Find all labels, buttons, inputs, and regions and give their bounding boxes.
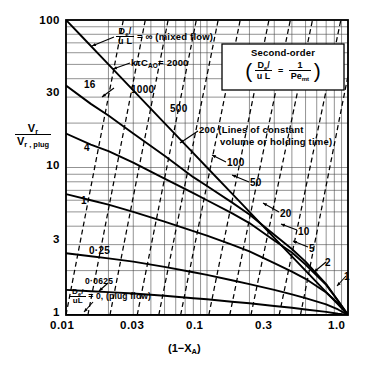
x-tick-0.1: 0.1 [186, 320, 204, 332]
y-tick-3: 3 [24, 234, 60, 246]
legend-rhs-den: Pemt [289, 71, 311, 81]
ktc-label-1: 1 [344, 272, 350, 282]
curve-label-0.0625: 0·0625 [85, 277, 113, 286]
ktcao-value: = 2000 [158, 57, 189, 68]
ktc-label-1000: 1000 [131, 85, 154, 95]
ktc-label-2: 2 [325, 258, 331, 268]
mixed-flow-annotation: De/ u L = ∞ (mixed flow) [116, 27, 213, 46]
legend-lhs-den: u L [255, 71, 273, 81]
x-tick-0.03: 0.03 [120, 320, 144, 332]
plug-flow-text: = 0, (plug flow) [88, 291, 151, 301]
dispersion-design-chart: 100 30 10 3 1 Vr Vr , plug 0.01 0.03 0.1… [0, 0, 378, 365]
ktcao-subscript: AO [148, 62, 158, 69]
x-tick-0.01: 0.01 [50, 320, 74, 332]
legend-rhs-num: 1 [289, 60, 311, 71]
constant-volume-line1: 200 (Lines of constant [199, 125, 304, 135]
curve-label-4: 4 [84, 143, 90, 153]
y-title-num-sub: r [35, 127, 38, 136]
y-axis-title: Vr Vr , plug [4, 122, 62, 147]
legend-paren-open: ( [245, 59, 252, 82]
legend-content: Second-order ( De/ u L = 1 Pemt ) [222, 47, 344, 81]
legend-title: Second-order [222, 47, 344, 58]
constant-volume-lead: 200 [199, 124, 215, 135]
ktc-label-20: 20 [280, 209, 292, 219]
ktcao-annotation: kτCAO= 2000 [131, 58, 189, 68]
ktc-label-10: 10 [298, 227, 310, 237]
ktc-label-50: 50 [250, 178, 262, 188]
mixed-flow-den: u L [116, 37, 134, 46]
x-title-main: (1−X [168, 342, 192, 354]
curve-label-1: 1 [81, 196, 87, 206]
ktc-label-100: 100 [227, 158, 245, 168]
x-tick-1.0: 1.0 [328, 320, 346, 332]
legend-equals: = [275, 66, 286, 76]
curve-label-16: 16 [84, 80, 96, 90]
plug-flow-annotation: De/ uL = 0, (plug flow) [70, 288, 151, 305]
curve-label-0.25: 0·25 [89, 246, 110, 256]
constant-volume-line2: volume or holding time) [220, 137, 332, 147]
ktc-label-500: 500 [170, 104, 188, 114]
ktcao-symbol: kτC [131, 57, 148, 68]
x-axis-title: (1−XA) [168, 343, 201, 354]
legend-paren-close: ) [314, 59, 321, 82]
mixed-flow-text: = ∞ (mixed flow) [137, 31, 213, 42]
x-tick-0.3: 0.3 [255, 320, 273, 332]
y-title-den-sub: r , plug [24, 140, 49, 149]
x-title-close: ) [197, 342, 201, 354]
constant-volume-text1: (Lines of constant [218, 124, 303, 135]
y-tick-1: 1 [24, 307, 60, 319]
y-tick-100: 100 [24, 15, 60, 27]
x-title-sub: A [192, 347, 197, 356]
plug-flow-den: uL [70, 297, 86, 305]
ktc-label-5: 5 [309, 244, 315, 254]
legend-lhs-num: De/ [255, 60, 273, 71]
y-tick-30: 30 [24, 87, 60, 99]
y-tick-10: 10 [24, 160, 60, 172]
